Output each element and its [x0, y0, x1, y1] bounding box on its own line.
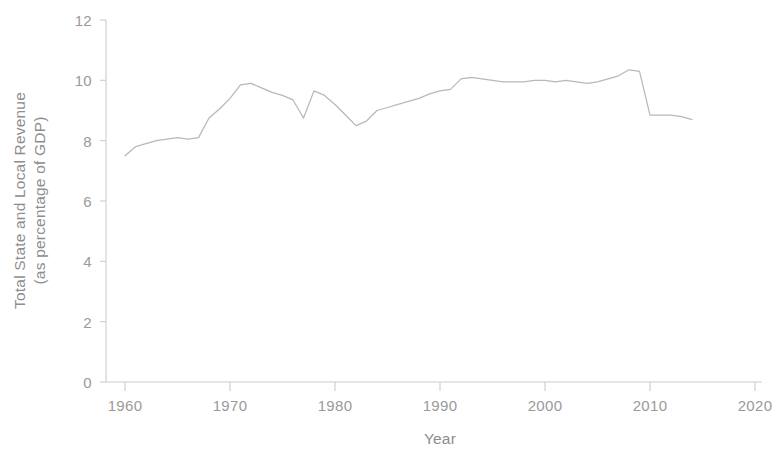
data-line-total-state-local-revenue — [125, 70, 692, 156]
axis-spines — [106, 20, 762, 382]
chart-figure: Total State and Local Revenue (as percen… — [0, 0, 776, 460]
y-tick-marks — [100, 20, 106, 382]
plot-area — [0, 0, 776, 460]
x-tick-marks — [125, 382, 755, 391]
